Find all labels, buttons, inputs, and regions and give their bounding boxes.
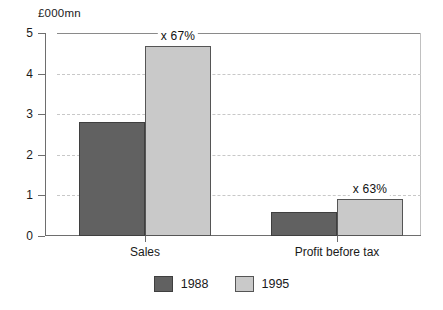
bar-1988-profit-before-tax bbox=[271, 212, 337, 236]
y-axis-tick-mark bbox=[38, 33, 45, 34]
y-axis-tick-mark bbox=[38, 74, 45, 75]
y-axis-tick-label: 3 bbox=[19, 107, 33, 121]
y-axis-tick-mark bbox=[38, 195, 45, 196]
y-axis-tick-label: 4 bbox=[19, 67, 33, 81]
gridline bbox=[57, 114, 421, 115]
y-axis-tick-mark bbox=[38, 114, 45, 115]
y-axis-tick-mark bbox=[38, 155, 45, 156]
legend-label: 1988 bbox=[181, 277, 209, 291]
y-axis-unit-label: £000mn bbox=[38, 7, 81, 19]
y-axis-tick-label: 2 bbox=[19, 148, 33, 162]
plot-top-rule bbox=[57, 33, 421, 34]
y-axis-tick-label: 1 bbox=[19, 188, 33, 202]
legend-item-1995[interactable]: 1995 bbox=[235, 276, 290, 292]
y-axis-tick-mark bbox=[38, 236, 45, 237]
plot-right-frame bbox=[420, 33, 421, 236]
legend: 19881995 bbox=[0, 276, 443, 292]
y-axis-tick-label: 5 bbox=[19, 26, 33, 40]
x-axis-tick-mark bbox=[145, 236, 146, 242]
y-axis-spine bbox=[45, 33, 46, 236]
y-axis-tick-label: 0 bbox=[19, 229, 33, 243]
x-axis-tick-mark bbox=[337, 236, 338, 242]
growth-annotation: x 63% bbox=[350, 182, 390, 196]
bar-1995-sales bbox=[145, 46, 211, 236]
plot-area bbox=[57, 33, 421, 236]
legend-swatch-1988 bbox=[154, 276, 173, 292]
legend-item-1988[interactable]: 1988 bbox=[154, 276, 209, 292]
bar-1988-sales bbox=[79, 122, 145, 236]
growth-annotation: x 67% bbox=[158, 29, 198, 43]
bar-1995-profit-before-tax bbox=[337, 199, 403, 236]
bar-chart: £000mn 012345SalesProfit before taxx 67%… bbox=[0, 0, 443, 310]
x-axis-category-label: Sales bbox=[130, 245, 160, 259]
legend-label: 1995 bbox=[262, 277, 290, 291]
gridline bbox=[57, 74, 421, 75]
x-axis-category-label: Profit before tax bbox=[295, 245, 380, 259]
legend-swatch-1995 bbox=[235, 276, 254, 292]
